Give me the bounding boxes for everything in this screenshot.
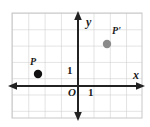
point-p-prime-label: P' xyxy=(112,26,121,36)
origin-label: O xyxy=(68,87,76,98)
coordinate-plane-figure: y x P P' 1 O 1 xyxy=(0,0,150,127)
x-axis-label: x xyxy=(133,69,139,81)
coordinate-plane-svg xyxy=(0,0,150,127)
point-p-prime xyxy=(103,40,111,48)
point-p-label: P xyxy=(30,57,36,67)
x-axis-tick-label-one: 1 xyxy=(88,87,94,98)
point-p xyxy=(34,70,42,78)
y-axis-label: y xyxy=(86,16,91,28)
y-axis-tick-label-one: 1 xyxy=(67,65,73,76)
